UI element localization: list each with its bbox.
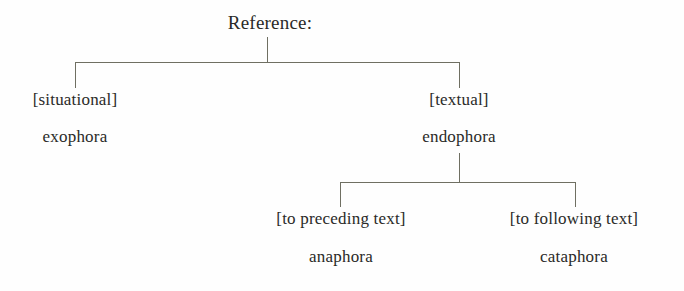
endophora-stem-line	[459, 153, 460, 182]
level1-horizontal-line	[75, 62, 460, 63]
following-branch-line	[575, 182, 576, 207]
root-stem-line	[267, 37, 268, 63]
situational-bracket-label: [situational]	[33, 90, 118, 110]
situational-term-label: exophora	[43, 127, 108, 147]
level2-horizontal-line	[340, 182, 576, 183]
preceding-term-label: anaphora	[309, 247, 373, 267]
following-bracket-label: [to following text]	[510, 209, 638, 229]
preceding-branch-line	[340, 182, 341, 207]
following-term-label: cataphora	[540, 247, 608, 267]
preceding-bracket-label: [to preceding text]	[276, 209, 405, 229]
textual-bracket-label: [textual]	[429, 90, 488, 110]
textual-branch-line	[459, 62, 460, 88]
textual-term-label: endophora	[422, 127, 496, 147]
reference-taxonomy-diagram: Reference: [situational] exophora [textu…	[0, 0, 684, 291]
root-node-label: Reference:	[228, 12, 312, 34]
situational-branch-line	[75, 62, 76, 88]
